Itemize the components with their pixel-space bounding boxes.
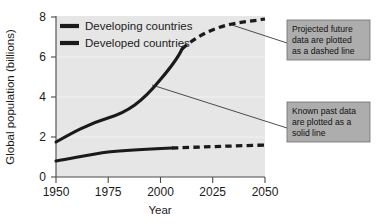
y-tick-label-4: 4 bbox=[39, 90, 46, 104]
annotation-known-line2: are plotted as a bbox=[292, 117, 351, 127]
legend-label-developing: Developing countries bbox=[85, 20, 193, 32]
y-tick-label-0: 0 bbox=[39, 170, 46, 184]
annotation-known-line1: Known past data bbox=[292, 106, 356, 116]
y-tick-label-6: 6 bbox=[39, 50, 46, 64]
legend-label-developed: Developed countries bbox=[85, 37, 190, 49]
y-tick-label-2: 2 bbox=[39, 130, 46, 144]
x-tick-label-1975: 1975 bbox=[95, 185, 122, 199]
x-axis-title: Year bbox=[148, 204, 171, 216]
population-chart: 0 2 4 6 8 1950 1975 2000 2025 2050 Year … bbox=[0, 0, 376, 224]
annotation-projected-line3: as a dashed line bbox=[292, 46, 355, 56]
x-tick-label-2000: 2000 bbox=[147, 185, 174, 199]
annotation-known-past: Known past data are plotted as a solid l… bbox=[287, 102, 370, 142]
y-tick-label-8: 8 bbox=[39, 10, 46, 24]
x-axis-ticks bbox=[56, 177, 265, 183]
annotation-projected-line2: data are plotted bbox=[292, 35, 352, 45]
x-tick-label-1950: 1950 bbox=[43, 185, 70, 199]
annotation-known-line3: solid line bbox=[292, 128, 326, 138]
y-axis-title: Global population (billions) bbox=[4, 29, 16, 165]
annotation-projected-future: Projected future data are plotted as a d… bbox=[287, 20, 370, 60]
x-tick-label-2050: 2050 bbox=[252, 185, 279, 199]
y-axis-ticks bbox=[51, 17, 56, 177]
x-tick-label-2025: 2025 bbox=[199, 185, 226, 199]
annotation-projected-line1: Projected future bbox=[292, 24, 353, 34]
